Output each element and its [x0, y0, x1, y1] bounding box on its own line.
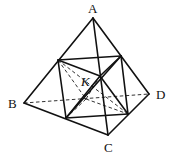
edge-bc — [24, 103, 108, 135]
octa-edge-bc-cd — [66, 114, 128, 118]
label-c: C — [104, 140, 113, 155]
octa-edge-ab-ad — [58, 56, 121, 60]
label-b: B — [8, 96, 17, 111]
octa-edge-ad-bc — [66, 56, 121, 118]
label-k: K — [80, 74, 91, 89]
octa-edge-ab-ac — [58, 60, 100, 76]
octa-edge-ab-bc — [58, 60, 66, 118]
label-d: D — [156, 87, 165, 102]
tetrahedron-diagram: A B C D K — [0, 0, 174, 158]
label-a: A — [88, 1, 98, 16]
